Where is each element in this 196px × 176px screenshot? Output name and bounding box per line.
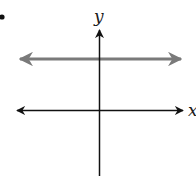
coordinate-graph: x y bbox=[0, 0, 196, 176]
x-axis-label: x bbox=[188, 100, 196, 120]
bullet-dot bbox=[0, 14, 5, 19]
y-axis-label: y bbox=[93, 6, 104, 26]
